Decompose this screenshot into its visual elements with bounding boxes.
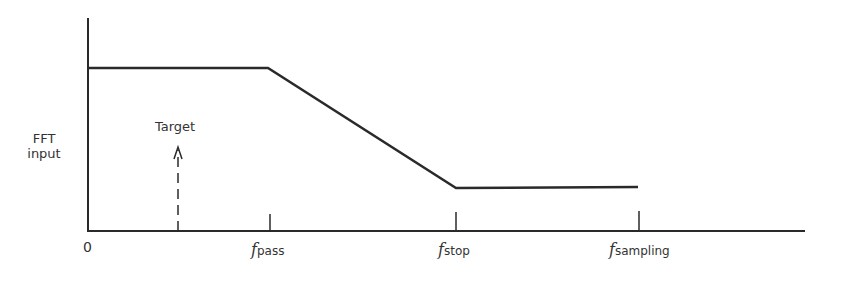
filter-response-diagram — [0, 0, 847, 294]
origin-label: 0 — [83, 240, 92, 255]
tick-label-fpass-subscript: pass — [257, 244, 284, 258]
tick-label-fsampling: fsampling — [609, 240, 670, 259]
target-label: Target — [155, 119, 195, 134]
tick-label-fstop-subscript: stop — [444, 244, 470, 258]
y-axis-label-line1: FFT — [26, 131, 62, 146]
y-axis-label: FFT input — [26, 131, 62, 161]
tick-label-fpass: fpass — [251, 240, 284, 259]
tick-label-fstop: fstop — [438, 240, 470, 259]
y-axis-label-line2: input — [26, 146, 62, 161]
tick-label-fsampling-subscript: sampling — [615, 244, 670, 258]
